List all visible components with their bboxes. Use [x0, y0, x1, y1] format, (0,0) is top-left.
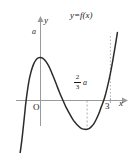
x-axis-label: x: [119, 99, 123, 108]
curve-equation-label: y=f(x): [70, 11, 93, 20]
function-graph-figure: y=f(x) y x a O 3 2 3 a: [0, 0, 130, 153]
origin-label: O: [33, 103, 40, 112]
fraction-numerator: 2: [76, 74, 80, 81]
min-value-fraction-label: 2 3 a: [74, 74, 87, 91]
fraction-two-thirds: 2 3: [74, 74, 81, 91]
graph-canvas: [0, 0, 130, 153]
peak-value-label: a: [32, 28, 36, 36]
x-tick-label-3: 3: [105, 102, 110, 111]
fraction-symbol-a: a: [83, 78, 87, 87]
y-axis-label: y: [44, 16, 48, 25]
y-axis-arrowhead: [38, 16, 44, 22]
fraction-denominator: 3: [76, 84, 80, 91]
function-curve: [20, 33, 118, 153]
